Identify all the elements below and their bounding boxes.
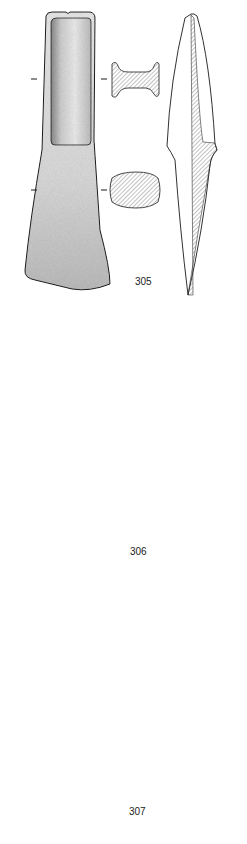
- artifact-number-305: 305: [135, 276, 152, 287]
- axes-drawing: [0, 0, 247, 844]
- illustration-plate: 305 306 307: [0, 0, 247, 844]
- axe-305-socket: [51, 18, 91, 145]
- axe-305: [25, 12, 217, 295]
- artifact-number-307: 307: [129, 806, 146, 817]
- axe-305-section-lower: [110, 172, 160, 208]
- axe-305-section-upper: [112, 62, 159, 97]
- artifact-number-306: 306: [130, 546, 147, 557]
